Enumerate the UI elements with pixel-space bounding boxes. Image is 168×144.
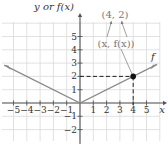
generic-point-label: (x, f(x))	[98, 38, 135, 49]
y-axis-label: y or f(x)	[33, 1, 74, 12]
y-tick-label: −2	[64, 125, 77, 135]
x-tick-label: −3	[33, 105, 47, 115]
y-axis-arrow-icon	[78, 13, 82, 17]
highlighted-point	[130, 74, 136, 80]
x-axis-label: x	[159, 104, 165, 115]
y-tick-label: 1	[71, 85, 77, 95]
y-tick-label: 5	[71, 32, 77, 42]
point-label: (4, 2)	[102, 9, 129, 20]
grid	[2, 22, 160, 141]
x-tick-label: 5	[144, 105, 150, 115]
x-tick-label: −2	[47, 105, 60, 115]
pointer-line	[121, 49, 132, 74]
x-pointer-line	[107, 23, 111, 37]
x-pointer-arrow-icon	[110, 21, 113, 25]
x-tick-label: 1	[90, 105, 96, 115]
y-tick-label: 3	[71, 58, 77, 68]
x-tick-label: 2	[104, 105, 110, 115]
x-tick-label: 3	[117, 105, 123, 115]
x-tick-label: 4	[130, 105, 136, 115]
y-pointer-line	[122, 23, 127, 37]
function-label: f	[150, 51, 157, 62]
x-tick-label: −4	[20, 105, 34, 115]
y-tick-label: 2	[71, 71, 77, 81]
x-tick-label: −5	[7, 105, 21, 115]
y-pointer-arrow-icon	[121, 21, 124, 25]
y-tick-label: −1	[64, 111, 77, 121]
function-graph: −5−4−3−2−11234554321−1−2 y or f(x) x f (…	[0, 0, 168, 144]
y-tick-label: 4	[71, 45, 77, 55]
